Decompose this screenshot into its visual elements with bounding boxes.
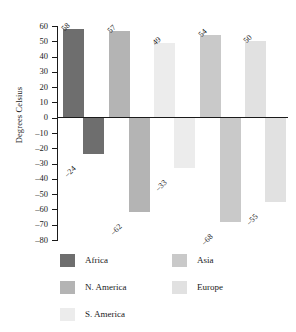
y-tick-label: –60	[8, 205, 48, 214]
y-tick-label: 10	[8, 98, 48, 107]
legend: AfricaN. AmericaS. AmericaAsiaEurope	[60, 252, 286, 326]
y-tick-mark	[52, 240, 58, 241]
bar-positive	[63, 29, 84, 118]
bar-positive	[200, 35, 221, 118]
y-tick-label: –70	[8, 220, 48, 229]
y-tick-label: –50	[8, 190, 48, 199]
value-label-negative: –33	[154, 179, 168, 193]
legend-label: Europe	[197, 282, 223, 292]
legend-swatch	[60, 281, 75, 294]
y-tick-mark	[52, 133, 58, 134]
legend-item[interactable]: S. America	[60, 306, 125, 322]
y-tick-label: –40	[8, 174, 48, 183]
plot-area: Degrees Celsius 6050403020100–10–20–30–4…	[0, 0, 296, 260]
y-tick-mark	[52, 26, 58, 27]
y-tick-label: 60	[8, 22, 48, 31]
y-tick-label: 50	[8, 37, 48, 46]
bar-positive	[109, 31, 130, 118]
legend-swatch	[172, 281, 187, 294]
y-tick-label: –30	[8, 159, 48, 168]
y-tick-mark	[52, 57, 58, 58]
legend-label: Asia	[197, 255, 214, 265]
bar-positive	[245, 41, 266, 117]
y-tick-mark	[52, 164, 58, 165]
legend-label: N. America	[85, 282, 126, 292]
y-tick-mark	[52, 41, 58, 42]
bar-negative	[265, 118, 286, 202]
y-tick-mark	[52, 179, 58, 180]
value-label-negative: –62	[109, 223, 123, 237]
y-tick-mark	[52, 102, 58, 103]
bar-negative	[220, 118, 241, 222]
y-tick-label: 0	[8, 113, 48, 122]
value-label-negative: –68	[200, 232, 214, 246]
legend-label: S. America	[85, 309, 125, 319]
legend-item[interactable]: Africa	[60, 252, 108, 268]
y-tick-mark	[52, 209, 58, 210]
y-tick-label: 30	[8, 67, 48, 76]
zero-baseline	[57, 117, 288, 118]
y-tick-mark	[52, 194, 58, 195]
y-tick-label: 20	[8, 83, 48, 92]
y-tick-mark	[52, 72, 58, 73]
y-tick-label: 40	[8, 52, 48, 61]
y-tick-mark	[52, 87, 58, 88]
bar-negative	[129, 118, 150, 213]
legend-label: Africa	[85, 255, 108, 265]
y-tick-label: –20	[8, 144, 48, 153]
legend-item[interactable]: Europe	[172, 279, 223, 295]
legend-item[interactable]: N. America	[60, 279, 126, 295]
y-tick-label: –10	[8, 129, 48, 138]
bar-chart: Degrees Celsius 6050403020100–10–20–30–4…	[0, 0, 296, 332]
value-label-negative: –24	[63, 165, 77, 179]
legend-item[interactable]: Asia	[172, 252, 214, 268]
y-tick-label: –80	[8, 236, 48, 245]
value-label-negative: –55	[245, 212, 259, 226]
legend-swatch	[60, 308, 75, 321]
bar-negative	[83, 118, 104, 155]
bar-positive	[154, 43, 175, 118]
legend-swatch	[60, 254, 75, 267]
legend-swatch	[172, 254, 187, 267]
bar-negative	[174, 118, 195, 168]
y-tick-mark	[52, 148, 58, 149]
y-tick-mark	[52, 225, 58, 226]
